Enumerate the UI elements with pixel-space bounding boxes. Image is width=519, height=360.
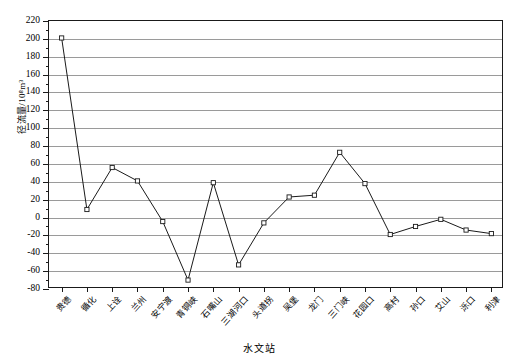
- data-point-marker: [110, 165, 114, 169]
- data-point-marker: [262, 221, 266, 225]
- x-tick-label: 孙口: [406, 292, 427, 314]
- x-tick-label: 花园口: [349, 292, 376, 321]
- x-tick-label: 三门峡: [324, 292, 351, 321]
- y-tick-label: -80: [27, 284, 40, 294]
- x-tick-label: 艾山: [431, 292, 452, 314]
- y-tick-label: -40: [27, 249, 40, 259]
- y-tick-label: 120: [26, 106, 40, 116]
- y-tick-label: -60: [27, 266, 40, 276]
- data-point-marker: [85, 207, 89, 211]
- y-tick-label: 80: [31, 141, 41, 151]
- y-tick-label: 60: [31, 159, 41, 169]
- data-point-marker: [211, 181, 215, 185]
- y-tick-label: 160: [26, 70, 40, 80]
- y-tick-label: 100: [26, 123, 40, 133]
- x-tick-label: 贵德: [52, 292, 73, 314]
- data-point-marker: [60, 36, 64, 40]
- data-point-marker: [186, 278, 190, 282]
- data-point-marker: [439, 217, 443, 221]
- x-tick-label: 利津: [482, 292, 503, 314]
- x-tick-label: 龙门: [305, 292, 326, 314]
- y-tick-label: 180: [26, 52, 40, 62]
- x-tick-label: 泺口: [457, 292, 478, 314]
- y-tick-label: 220: [26, 16, 40, 26]
- y-tick: [43, 289, 49, 290]
- y-tick-label: 140: [26, 88, 40, 98]
- x-tick-label: 兰州: [128, 292, 149, 314]
- x-tick-label: 循化: [78, 292, 99, 314]
- x-axis-title-text: 水文站: [243, 343, 276, 354]
- y-tick-label: 200: [26, 34, 40, 44]
- plot-area: 220200180160140120100806040200-20-40-60-…: [48, 20, 503, 288]
- data-point-marker: [161, 219, 165, 223]
- data-point-marker: [135, 179, 139, 183]
- data-point-marker: [363, 181, 367, 185]
- data-series-runoff: [49, 21, 504, 289]
- x-tick-label: 吴堡: [280, 292, 301, 314]
- y-tick-label: -20: [27, 231, 40, 241]
- x-tick-label: 头道拐: [248, 292, 275, 321]
- x-tick-label: 青铜峡: [173, 292, 200, 321]
- series-line: [62, 38, 492, 280]
- y-tick-label: 20: [31, 195, 41, 205]
- x-axis-title: 水文站: [0, 340, 519, 355]
- data-point-marker: [312, 193, 316, 197]
- data-point-marker: [464, 228, 468, 232]
- data-point-marker: [413, 224, 417, 228]
- data-point-marker: [236, 263, 240, 267]
- data-point-marker: [388, 232, 392, 236]
- x-tick-label: 安宁渡: [147, 292, 174, 321]
- data-point-marker: [287, 195, 291, 199]
- runoff-line-chart: 径流量/10⁸m³ 220200180160140120100806040200…: [0, 0, 519, 360]
- y-tick-label: 0: [35, 213, 40, 223]
- x-tick-label: 高村: [381, 292, 402, 314]
- data-point-marker: [338, 150, 342, 154]
- y-tick-label: 40: [31, 177, 41, 187]
- x-tick-label: 上诠: [103, 292, 124, 314]
- data-point-marker: [489, 232, 493, 236]
